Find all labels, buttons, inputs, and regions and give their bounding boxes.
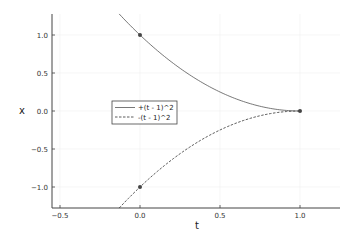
x-tick-label: −0.5 (52, 212, 69, 220)
y-tick-label: −0.5 (31, 146, 48, 154)
y-axis-label: x (19, 105, 25, 116)
x-axis-label: t (195, 220, 199, 231)
series-negative-line (119, 111, 300, 208)
series-positive-line (119, 14, 300, 111)
x-ticks: −0.50.00.51.0 (52, 205, 306, 220)
chart: −0.50.00.51.0 −1.0−0.50.00.51.0 t x +(t … (0, 0, 359, 242)
y-ticks: −1.0−0.50.00.51.0 (31, 32, 55, 192)
legend-label-negative: -(t - 1)^2 (138, 114, 170, 122)
y-tick-label: −1.0 (31, 184, 48, 192)
y-tick-label: 0.5 (37, 70, 48, 78)
x-tick-label: 0.5 (214, 212, 225, 220)
data-point-marker (138, 33, 142, 37)
x-tick-label: 0.0 (134, 212, 145, 220)
y-tick-label: 0.0 (37, 108, 48, 116)
y-tick-label: 1.0 (37, 32, 48, 40)
data-point-marker (138, 185, 142, 189)
legend: +(t - 1)^2 -(t - 1)^2 (112, 101, 177, 124)
x-tick-label: 1.0 (294, 212, 305, 220)
data-point-marker (298, 109, 302, 113)
legend-label-positive: +(t - 1)^2 (138, 104, 174, 112)
